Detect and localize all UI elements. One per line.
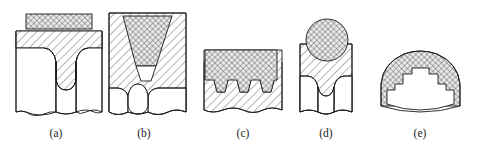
panel-a-left-member: [16, 48, 56, 115]
panel-b-left-member: [109, 88, 128, 115]
panel-d-left-member: [300, 76, 318, 112]
panel-a-right-member: [76, 48, 102, 114]
panel-d-label: (d): [319, 127, 333, 140]
figure-root: (a) (b): [0, 0, 485, 145]
panel-b-label: (b): [137, 127, 151, 140]
panel-b-center-member: [128, 84, 148, 114]
panel-d-right-member: [334, 76, 352, 112]
panel-a-label: (a): [50, 127, 63, 140]
panel-c: (c): [204, 50, 282, 140]
panel-d-insert-circle: [306, 19, 348, 61]
panel-b: (b): [109, 13, 186, 140]
panel-a-insert-strip: [26, 14, 92, 29]
panel-e-label: (e): [414, 127, 427, 140]
panel-a: (a): [16, 14, 102, 140]
panel-d: (d): [300, 19, 352, 140]
panel-c-insert-cap: [205, 50, 277, 92]
panel-e: (e): [381, 51, 460, 140]
panel-c-label: (c): [237, 127, 250, 140]
weld-cross-section-figure: (a) (b): [0, 0, 485, 145]
